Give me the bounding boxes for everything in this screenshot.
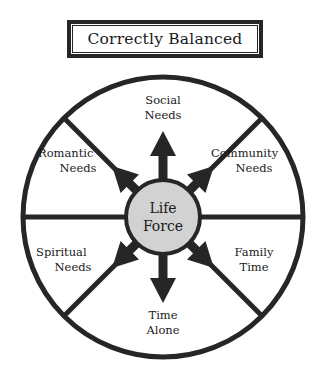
segment-label-family-line2: Time xyxy=(226,260,282,275)
balanced-life-wheel-figure: Correctly Balanced xyxy=(0,0,330,384)
core-label-line1: Life xyxy=(126,199,200,217)
segment-label-time-alone: Time Alone xyxy=(133,308,193,338)
core-label-line2: Force xyxy=(126,217,200,235)
segment-label-time-alone-line2: Alone xyxy=(133,323,193,338)
segment-label-family: Family Time xyxy=(226,245,282,275)
segment-label-spiritual-line1: Spiritual xyxy=(36,245,110,260)
segment-label-spiritual-line2: Needs xyxy=(36,260,110,275)
segment-label-spiritual: Spiritual Needs xyxy=(36,245,110,275)
segment-label-romantic-line2: Needs xyxy=(38,161,118,176)
segment-label-social-line2: Needs xyxy=(133,108,193,123)
segment-label-community-line1: Community xyxy=(211,146,297,161)
core-label: Life Force xyxy=(126,199,200,235)
segment-label-romantic: Romantic Needs xyxy=(38,146,118,176)
segment-label-social: Social Needs xyxy=(133,93,193,123)
segment-label-romantic-line1: Romantic xyxy=(38,146,118,161)
segment-label-social-line1: Social xyxy=(133,93,193,108)
segment-label-community-line2: Needs xyxy=(211,161,297,176)
segment-label-time-alone-line1: Time xyxy=(133,308,193,323)
segment-label-community: Community Needs xyxy=(211,146,297,176)
segment-label-family-line1: Family xyxy=(226,245,282,260)
